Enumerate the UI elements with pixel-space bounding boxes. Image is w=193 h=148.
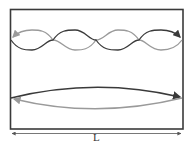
fourth-harmonic-reflected-wave: [13, 30, 182, 50]
fundamental-forward-wave: [11, 87, 180, 98]
standing-wave-diagram: [0, 0, 193, 148]
fourth-harmonic-forward-wave: [11, 30, 180, 50]
fundamental-reflected-wave: [14, 98, 182, 109]
container-box: [11, 10, 184, 130]
length-label: L: [93, 131, 100, 143]
